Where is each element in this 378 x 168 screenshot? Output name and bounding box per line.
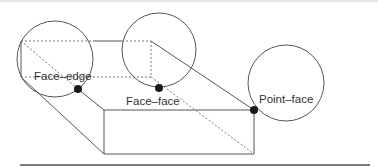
label-face-edge: Face–edge <box>34 71 92 83</box>
contact-types-diagram: Face–edge Face–face Point–face <box>0 0 378 168</box>
label-face-face: Face–face <box>126 96 180 108</box>
label-point-face: Point–face <box>259 94 313 106</box>
box-diagram-svg <box>0 0 378 168</box>
contact-point-face-face-icon <box>155 84 163 92</box>
sphere-point-face-icon <box>248 45 324 121</box>
edge-top-left-slant <box>78 89 104 110</box>
contact-point-face-edge-icon <box>74 85 82 93</box>
hidden-right-diagonal <box>151 77 254 154</box>
sphere-face-edge-icon <box>17 21 93 97</box>
edge-left-bottom-slant <box>21 77 104 154</box>
sphere-face-face-icon <box>122 13 196 87</box>
contact-point-point-face-icon <box>250 106 258 114</box>
bottom-rule <box>20 164 370 166</box>
